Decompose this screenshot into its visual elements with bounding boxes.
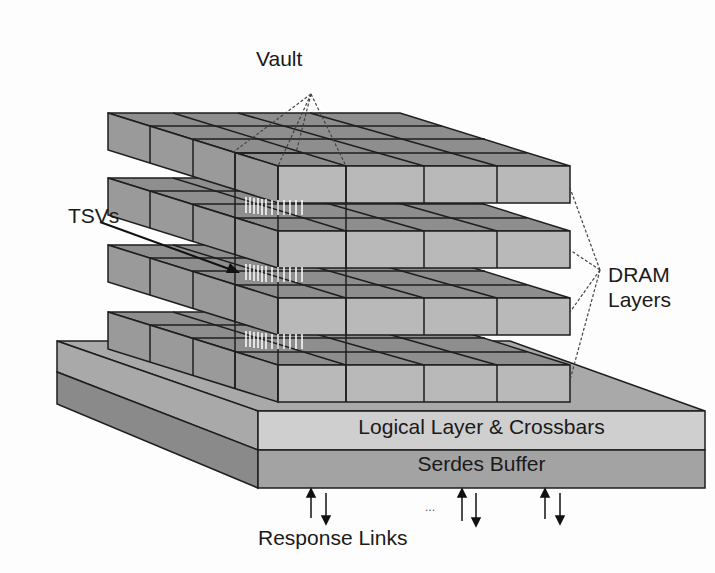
logical-layer-label: Logical Layer & Crossbars bbox=[258, 415, 705, 439]
ellipsis-label: ... bbox=[425, 500, 435, 514]
tsvs-label: TSVs bbox=[68, 204, 119, 228]
dram-layers-label: DRAM Layers bbox=[608, 262, 671, 312]
dram-label-line2: Layers bbox=[608, 287, 671, 312]
response-link-arrows bbox=[307, 489, 564, 526]
dram-leader-lines bbox=[570, 188, 600, 380]
response-links-label: Response Links bbox=[258, 526, 407, 550]
vault-label: Vault bbox=[256, 47, 302, 71]
dram-label-line1: DRAM bbox=[608, 262, 671, 287]
serdes-buffer-label: Serdes Buffer bbox=[258, 452, 705, 476]
